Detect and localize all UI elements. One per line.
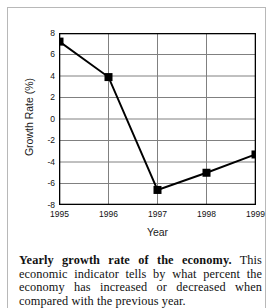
x-axis-tick-label: 1996 — [99, 210, 118, 219]
line-chart: Growth Rate (%) 86420-2-4-6-8 1995199619… — [8, 8, 267, 246]
y-axis-tick-labels: 86420-2-4-6-8 — [38, 33, 55, 205]
figure-page: Growth Rate (%) 86420-2-4-6-8 1995199619… — [0, 0, 277, 308]
caption-bold-lead: Yearly growth rate of the economy. — [19, 253, 232, 267]
y-axis-tick-label: 0 — [50, 115, 55, 124]
y-axis-tick-label: -2 — [47, 136, 55, 145]
y-axis-tick-label: 6 — [50, 50, 55, 59]
figure-caption: Yearly growth rate of the economy. This … — [19, 254, 262, 308]
y-axis-tick-label: 4 — [50, 72, 55, 81]
data-point-marker — [154, 186, 162, 194]
x-axis-tick-label: 1997 — [148, 210, 167, 219]
data-point-marker — [105, 73, 113, 81]
plot-area — [59, 33, 256, 205]
x-axis-tick-label: 1999 — [246, 210, 265, 219]
y-axis-label: Growth Rate (%) — [23, 57, 35, 177]
plot-svg — [59, 33, 256, 205]
y-axis-tick-label: -6 — [47, 179, 55, 188]
data-point-marker — [59, 38, 64, 46]
data-point-marker — [252, 150, 257, 158]
y-axis-tick-label: 2 — [50, 93, 55, 102]
y-axis-tick-label: 8 — [50, 29, 55, 38]
x-axis-tick-labels: 19951996199719981999 — [59, 210, 256, 224]
x-axis-label: Year — [59, 226, 256, 238]
figure-frame: Growth Rate (%) 86420-2-4-6-8 1995199619… — [7, 7, 266, 308]
x-axis-tick-label: 1995 — [50, 210, 69, 219]
x-axis-tick-label: 1998 — [197, 210, 216, 219]
y-axis-tick-label: -8 — [47, 201, 55, 210]
data-point-marker — [203, 169, 211, 177]
y-axis-tick-label: -4 — [47, 158, 55, 167]
